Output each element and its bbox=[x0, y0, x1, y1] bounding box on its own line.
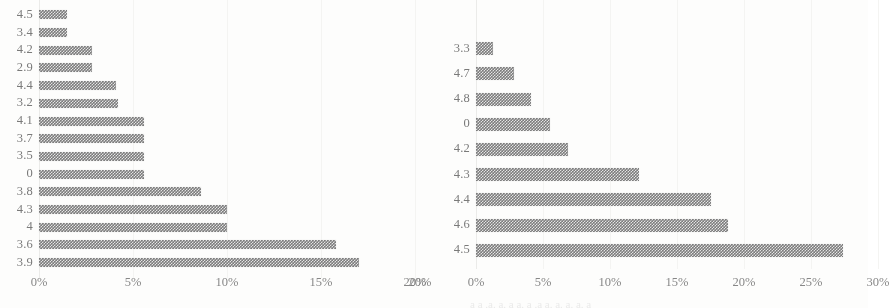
category-label: 4.3 bbox=[0, 203, 33, 216]
x-tick-label: 10% bbox=[216, 272, 239, 292]
bar bbox=[39, 46, 92, 55]
gridline bbox=[321, 0, 322, 278]
bar bbox=[39, 10, 67, 19]
bar bbox=[39, 63, 92, 72]
plot-area-right: 3.34.74.804.24.34.44.64.5 bbox=[420, 0, 868, 270]
bar-chart-right: 3.34.74.804.24.34.44.64.5 0%5%10%15%20%2… bbox=[420, 0, 868, 308]
category-label: 4.4 bbox=[436, 193, 470, 206]
bar bbox=[476, 219, 728, 232]
category-label: 4.5 bbox=[436, 243, 470, 256]
bar bbox=[39, 170, 144, 179]
bar bbox=[39, 134, 144, 143]
bar bbox=[39, 81, 116, 90]
bar bbox=[39, 240, 336, 249]
x-tick-label: 5% bbox=[125, 272, 142, 292]
x-tick-label: 30% bbox=[867, 272, 889, 292]
category-label: 3.5 bbox=[0, 149, 33, 162]
category-label: 4.4 bbox=[0, 79, 33, 92]
gridline bbox=[744, 0, 745, 269]
category-label: 3.4 bbox=[0, 26, 33, 39]
category-label: 3.8 bbox=[0, 185, 33, 198]
x-tick-label: 0% bbox=[468, 272, 485, 292]
category-label: 4.6 bbox=[436, 218, 470, 231]
category-label: 4.8 bbox=[436, 92, 470, 105]
category-label: 0 bbox=[436, 117, 470, 130]
x-axis-left: 0%5%10%15%20% bbox=[0, 272, 420, 292]
bar bbox=[39, 28, 67, 37]
bar bbox=[476, 143, 568, 156]
caption-remnant: a a .a. a. a a. a .a a. a. a. a. a bbox=[470, 298, 860, 308]
x-tick-label: 0% bbox=[31, 272, 48, 292]
category-label: 4.5 bbox=[0, 8, 33, 21]
category-label: 4 bbox=[0, 220, 33, 233]
gridline bbox=[878, 0, 879, 269]
bar bbox=[39, 223, 227, 232]
x-axis-right: 0%5%10%15%20%25%30%20% bbox=[420, 272, 868, 292]
bar bbox=[476, 93, 531, 106]
category-label: 4.3 bbox=[436, 168, 470, 181]
bar bbox=[39, 152, 144, 161]
category-label: 3.9 bbox=[0, 256, 33, 269]
category-label: 3.6 bbox=[0, 238, 33, 251]
x-tick-label: 15% bbox=[666, 272, 689, 292]
category-label: 3.7 bbox=[0, 132, 33, 145]
bar bbox=[39, 205, 227, 214]
bar bbox=[476, 42, 493, 55]
bar bbox=[476, 67, 514, 80]
bar-chart-left: 4.53.44.22.94.43.24.13.73.503.84.343.63.… bbox=[0, 0, 420, 308]
x-tick-label: 15% bbox=[310, 272, 333, 292]
bar bbox=[39, 99, 118, 108]
bar bbox=[476, 168, 639, 181]
x-tick-label-adjacent: 20% bbox=[409, 272, 432, 292]
category-label: 4.2 bbox=[0, 43, 33, 56]
category-label: 2.9 bbox=[0, 61, 33, 74]
x-tick-label: 10% bbox=[599, 272, 622, 292]
bar bbox=[39, 117, 144, 126]
gridline bbox=[227, 0, 228, 278]
x-tick-label: 5% bbox=[535, 272, 552, 292]
gridline bbox=[415, 0, 416, 278]
category-label: 3.2 bbox=[0, 96, 33, 109]
category-label: 4.7 bbox=[436, 67, 470, 80]
category-label: 4.1 bbox=[0, 114, 33, 127]
bar bbox=[476, 244, 843, 257]
plot-area-left: 4.53.44.22.94.43.24.13.73.503.84.343.63.… bbox=[0, 0, 420, 270]
category-label: 3.3 bbox=[436, 42, 470, 55]
bar bbox=[476, 193, 711, 206]
bar bbox=[476, 118, 550, 131]
category-label: 0 bbox=[0, 167, 33, 180]
category-label: 4.2 bbox=[436, 142, 470, 155]
gridline bbox=[811, 0, 812, 269]
bar bbox=[39, 258, 359, 267]
bar bbox=[39, 187, 201, 196]
x-tick-label: 25% bbox=[800, 272, 823, 292]
x-tick-label: 20% bbox=[733, 272, 756, 292]
